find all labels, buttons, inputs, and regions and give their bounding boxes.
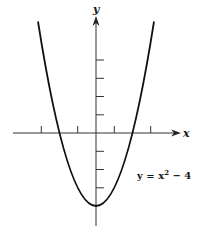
equation-label: y = x2 − 4 bbox=[136, 168, 191, 181]
plot-canvas: x y y = x2 − 4 bbox=[0, 0, 197, 232]
y-axis-label: y bbox=[92, 3, 101, 16]
x-axis-label: x bbox=[182, 127, 190, 140]
equation-main: y = x bbox=[136, 170, 165, 181]
parabola-plot: x y y = x2 − 4 bbox=[0, 0, 197, 232]
y-ticks bbox=[96, 60, 104, 188]
equation-tail: − 4 bbox=[169, 170, 191, 181]
